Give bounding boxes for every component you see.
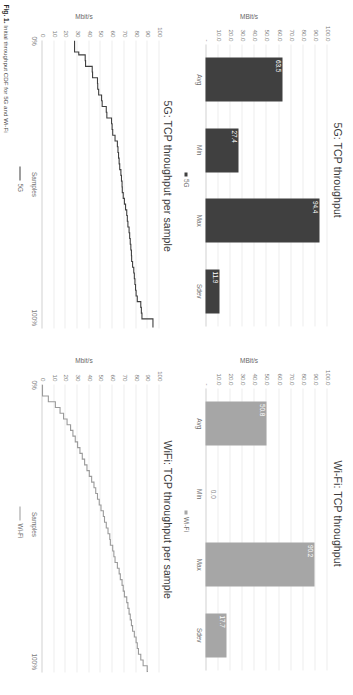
chart-title-wifi-cdf: WiFi: TCP throughput per sample	[161, 440, 173, 599]
y-axis-tick-label: 20	[62, 367, 68, 381]
y-axis-tick-label: 30	[74, 367, 80, 381]
y-axis-tick-label: 10	[51, 23, 57, 37]
x-axis-category-label: Min	[195, 115, 202, 186]
chart-panel-5g-cdf: 5G: TCP throughput per sample Mbit/s 100…	[5, 4, 175, 334]
y-axis-tick-label: 50.0	[263, 15, 269, 41]
figure-sheet: 5G: TCP throughput MBit/s 100.090.080.07…	[0, 0, 353, 695]
gridline	[302, 44, 303, 326]
y-axis-tick-label: 40.0	[251, 359, 257, 385]
y-axis-tick-label: 90	[144, 23, 150, 37]
cdf-series-fiveg-cdf	[41, 40, 159, 328]
y-axis-label-wifi-cdf: Mbit/s	[64, 357, 104, 364]
y-axis-tick-label: 30	[74, 23, 80, 37]
legend-label-5g: 5G	[182, 179, 189, 188]
x-axis-tick-start-wifi-cdf: 0%	[30, 380, 37, 389]
x-axis-label-wifi-cdf: Samples	[30, 494, 37, 554]
y-axis-tick-label: 100	[156, 367, 162, 381]
x-axis-tick-end-wifi-cdf: 100%	[30, 653, 37, 669]
y-axis-tick-label: 0	[39, 23, 45, 37]
y-axis-tick-label: 20.0	[227, 15, 233, 41]
y-axis-tick-label: 70	[121, 367, 127, 381]
x-axis-category-label: Sdev	[195, 256, 202, 327]
y-axis-tick-label: 30.0	[239, 359, 245, 385]
bar-value-label: 63.5	[273, 59, 279, 71]
bar-max: 90.2	[205, 542, 314, 586]
y-axis-tick-label: -	[203, 15, 209, 41]
legend-line-icon	[19, 166, 21, 180]
legend-line-icon	[19, 506, 21, 520]
chart-panel-5g-bar: 5G: TCP throughput MBit/s 100.090.080.07…	[177, 4, 347, 334]
chart-title-5g-cdf: 5G: TCP throughput per sample	[161, 100, 173, 251]
bar-sdev: 11.9	[205, 269, 219, 313]
y-axis-tick-label: 70.0	[288, 15, 294, 41]
figure-root: 5G: TCP throughput MBit/s 100.090.080.07…	[0, 0, 353, 695]
gridline	[302, 388, 303, 670]
legend-label-wifi-cdf: Wi-Fi	[16, 523, 23, 538]
bar-value-label: 17.7	[218, 615, 224, 627]
y-axis-tick-label: 30.0	[239, 15, 245, 41]
y-axis-tick-label: 100.0	[324, 359, 330, 385]
y-axis-tick-label: 100.0	[324, 15, 330, 41]
x-axis-label-5g-cdf: Samples	[30, 154, 37, 214]
x-axis-category-label: Avg	[195, 388, 202, 459]
legend-label-wifi: Wi-Fi	[182, 517, 189, 532]
y-axis-tick-label: 80.0	[300, 15, 306, 41]
y-axis-label-5g-bar: MBit/s	[229, 13, 269, 20]
gridline	[314, 388, 315, 670]
x-axis-category-label: Min	[195, 459, 202, 530]
bar-min: 27.4	[205, 128, 238, 172]
plot-area-5g-bar: 63.527.494.411.9	[205, 44, 327, 326]
y-axis-tick-label: 90.0	[312, 359, 318, 385]
y-axis-tick-label: -	[203, 359, 209, 385]
figure-caption: Fig. 1. Initial throughput CDF for 5G an…	[2, 4, 9, 132]
bar-sdev: 17.7	[205, 613, 226, 657]
y-axis-tick-label: 100	[156, 23, 162, 37]
y-axis-tick-label: 20.0	[227, 359, 233, 385]
y-axis-tick-label: 80	[132, 367, 138, 381]
y-axis-tick-label: 50	[97, 23, 103, 37]
bar-value-label: 50.8	[258, 403, 264, 415]
y-axis-tick-label: 40	[86, 367, 92, 381]
y-axis-tick-label: 0	[39, 367, 45, 381]
gridline	[326, 44, 327, 326]
bar-value-label: 90.2	[306, 544, 312, 556]
bar-avg: 50.8	[205, 401, 266, 445]
gridline	[314, 44, 315, 326]
bar-avg: 63.5	[205, 57, 282, 101]
legend-swatch-icon	[184, 172, 188, 176]
legend-wifi-cdf: Wi-Fi	[16, 506, 23, 538]
x-axis-category-label: Max	[195, 185, 202, 256]
bar-max: 94.4	[205, 198, 319, 242]
x-axis-category-label: Avg	[195, 44, 202, 115]
cdf-series-wifi-cdf	[41, 384, 159, 672]
y-axis-tick-label: 90	[144, 367, 150, 381]
legend-label-5g-cdf: 5G	[16, 183, 23, 192]
y-axis-label-5g-cdf: Mbit/s	[64, 13, 104, 20]
x-axis-category-label: Max	[195, 529, 202, 600]
figure-caption-text: Initial throughput CDF for 5G and Wi-Fi	[2, 25, 9, 132]
y-axis-tick-label: 90.0	[312, 15, 318, 41]
y-axis-tick-label: 50.0	[263, 359, 269, 385]
chart-title-5g-bar: 5G: TCP throughput	[331, 122, 343, 217]
x-axis-category-label: Sdev	[195, 600, 202, 671]
y-axis-tick-label: 60	[109, 367, 115, 381]
legend-wifi-bar: Wi-Fi	[182, 510, 189, 531]
bar-value-label: 27.4	[230, 130, 236, 142]
chart-panel-wifi-bar: Wi-Fi: TCP throughput MBit/s 100.090.080…	[177, 348, 347, 678]
chart-panel-wifi-cdf: WiFi: TCP throughput per sample Mbit/s 1…	[5, 348, 175, 678]
legend-swatch-icon	[184, 510, 188, 514]
y-axis-tick-label: 40.0	[251, 15, 257, 41]
y-axis-tick-label: 10.0	[215, 359, 221, 385]
plot-area-5g-cdf	[41, 40, 159, 328]
legend-5g-cdf: 5G	[16, 166, 23, 192]
x-axis-tick-end-5g-cdf: 100%	[30, 309, 37, 325]
gridline	[278, 388, 279, 670]
y-axis-tick-label: 10	[51, 367, 57, 381]
legend-5g-bar: 5G	[182, 172, 189, 187]
bar-value-label: 11.9	[211, 271, 217, 283]
x-axis-tick-start-5g-cdf: 0%	[30, 36, 37, 45]
y-axis-tick-label: 60	[109, 23, 115, 37]
gridline	[326, 388, 327, 670]
y-axis-tick-label: 10.0	[215, 15, 221, 41]
y-axis-tick-label: 20	[62, 23, 68, 37]
